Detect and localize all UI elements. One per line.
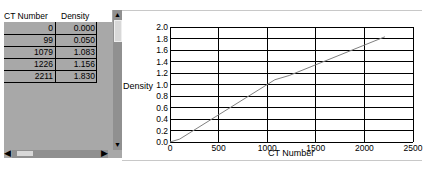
svg-text:0: 0 — [168, 143, 173, 153]
svg-text:1.2: 1.2 — [156, 68, 168, 78]
svg-text:500: 500 — [212, 143, 226, 153]
svg-text:0.6: 0.6 — [156, 103, 168, 113]
svg-text:1.4: 1.4 — [156, 57, 168, 67]
svg-text:1500: 1500 — [306, 143, 325, 153]
svg-text:0.4: 0.4 — [156, 114, 168, 124]
chart-tick-labels: 0.00.20.40.60.81.01.21.41.61.82.00500100… — [156, 22, 423, 153]
svg-text:1000: 1000 — [258, 143, 277, 153]
density-line — [170, 37, 385, 142]
svg-text:2500: 2500 — [404, 143, 423, 153]
svg-text:0.2: 0.2 — [156, 126, 168, 136]
svg-text:1.0: 1.0 — [156, 80, 168, 90]
svg-text:0.0: 0.0 — [156, 137, 168, 147]
svg-text:2000: 2000 — [355, 143, 374, 153]
chart-grid — [170, 27, 413, 142]
density-chart: 0.00.20.40.60.81.01.21.41.61.82.00500100… — [0, 0, 435, 169]
svg-text:2.0: 2.0 — [156, 22, 168, 32]
svg-text:1.8: 1.8 — [156, 34, 168, 44]
svg-text:1.6: 1.6 — [156, 45, 168, 55]
svg-text:0.8: 0.8 — [156, 91, 168, 101]
